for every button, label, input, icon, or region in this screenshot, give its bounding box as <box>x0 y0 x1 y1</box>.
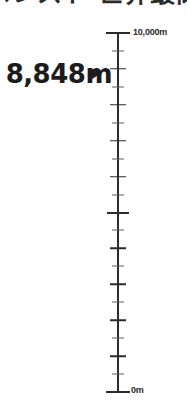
axis-tick <box>112 122 124 123</box>
axis-tick <box>110 319 126 321</box>
axis-tick <box>112 374 124 375</box>
infographic-scale-page: エベレスト 世界最高峰 10,000m 0m 8,848m <box>0 0 187 410</box>
axis-tick <box>112 158 124 159</box>
axis-tick <box>107 212 129 214</box>
axis-tick <box>112 50 124 51</box>
right-triangle-marker-icon <box>92 69 100 79</box>
axis-tick <box>112 86 124 87</box>
axis-tick <box>110 355 126 357</box>
axis-tick <box>112 338 124 339</box>
axis-tick <box>110 68 126 70</box>
axis-tick <box>110 284 126 286</box>
axis-tick <box>110 140 126 142</box>
axis-tick <box>112 230 124 231</box>
axis-max-label: 10,000m <box>133 27 167 37</box>
axis-tick <box>112 302 124 303</box>
axis-tick <box>110 104 126 106</box>
axis-tick <box>110 176 126 178</box>
axis-tick <box>106 32 130 34</box>
axis-min-label: 0m <box>131 385 144 395</box>
axis-tick <box>106 391 130 393</box>
axis-tick <box>112 194 124 195</box>
axis-tick <box>112 266 124 267</box>
axis-tick <box>110 248 126 250</box>
